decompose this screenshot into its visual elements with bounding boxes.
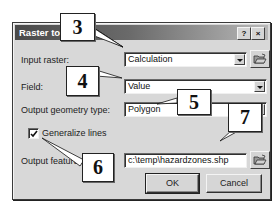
output-features-value: c:\temp\hazardzones.shp [128, 155, 229, 165]
open-folder-icon [253, 154, 267, 166]
close-button[interactable]: × [251, 27, 265, 40]
chevron-down-icon[interactable] [254, 81, 265, 92]
input-raster-value: Calculation [128, 54, 173, 64]
help-button[interactable]: ? [237, 27, 251, 40]
callout-4: 4 [66, 66, 99, 96]
open-folder-icon [253, 53, 267, 65]
generalize-lines-label: Generalize lines [42, 128, 107, 138]
cancel-button[interactable]: Cancel [206, 174, 262, 193]
output-geometry-type-label: Output geometry type: [21, 105, 110, 115]
generalize-lines-checkbox[interactable] [28, 128, 39, 139]
input-raster-label: Input raster: [21, 55, 69, 65]
ok-button[interactable]: OK [146, 174, 199, 193]
callout-5: 5 [177, 89, 211, 115]
callout-6: 6 [82, 153, 114, 182]
output-geometry-type-value: Polygon [128, 104, 161, 114]
title-bar[interactable]: Raster to F ? × [15, 25, 268, 40]
callout-3: 3 [60, 13, 95, 41]
field-value: Value [128, 81, 150, 91]
input-raster-dropdown[interactable]: Calculation [124, 52, 247, 67]
input-raster-browse-button[interactable] [250, 50, 270, 68]
output-features-browse-button[interactable] [250, 151, 270, 169]
callout-7: 7 [228, 103, 262, 132]
output-features-label: Output features: [21, 156, 86, 166]
checkmark-icon [30, 130, 38, 138]
chevron-down-icon[interactable] [234, 54, 245, 65]
output-features-input[interactable]: c:\temp\hazardzones.shp [124, 153, 247, 168]
field-label: Field: [21, 82, 43, 92]
